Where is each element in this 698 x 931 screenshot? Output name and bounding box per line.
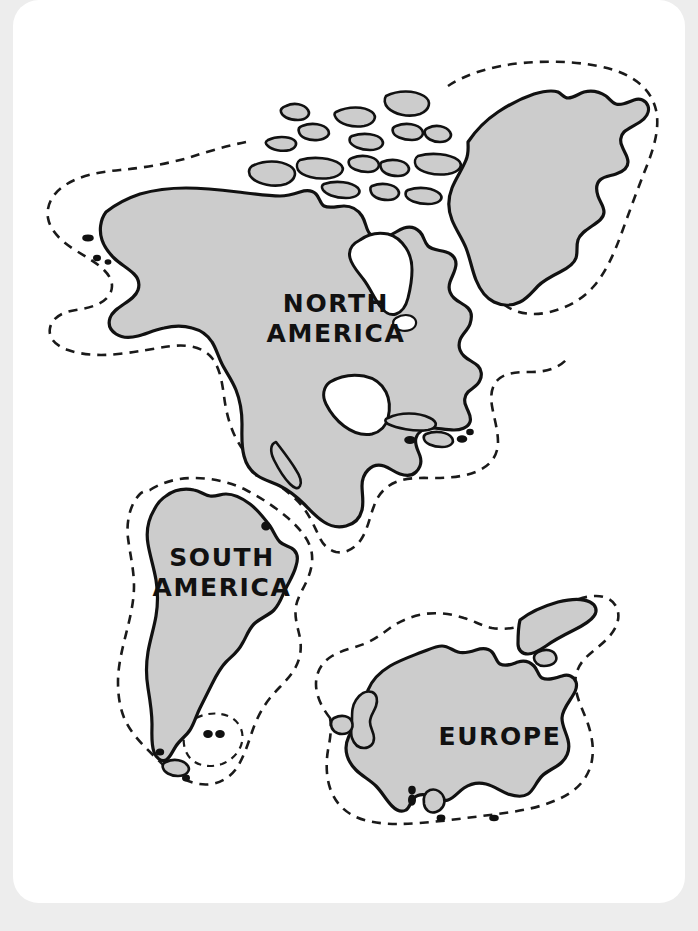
page-root: NORTH AMERICA SOUTH AMERICA	[0, 0, 698, 931]
paper-sheet	[13, 0, 685, 903]
